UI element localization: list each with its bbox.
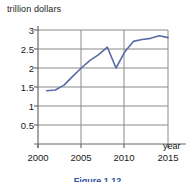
figure-container: trillion dollars 3 2.5 2 1.5 1 0.5 [0, 0, 195, 182]
figure-caption: Figure 1.12 [0, 176, 195, 182]
data-series-line [47, 36, 168, 91]
x-axis-ticks [38, 144, 168, 148]
x-tick-label-2010: 2010 [113, 152, 134, 163]
x-axis-title: year [163, 141, 181, 151]
horizontal-gridlines [38, 30, 168, 125]
x-tick-label-2000: 2000 [27, 152, 48, 163]
x-tick-label-2015: 2015 [157, 152, 178, 163]
x-tick-label-2005: 2005 [70, 152, 91, 163]
